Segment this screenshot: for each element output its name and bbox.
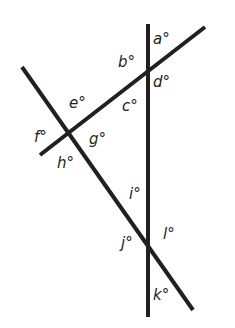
angle-diagram: a° b° d° c° e° f° g° h° i° j° l° k° (0, 0, 235, 328)
angle-label-h: h° (57, 154, 74, 172)
angle-label-c: c° (122, 97, 138, 115)
angle-label-k: k° (153, 286, 169, 304)
angle-label-f: f° (34, 128, 47, 146)
angle-label-l: l° (163, 225, 175, 243)
angle-label-b: b° (118, 53, 135, 71)
angle-label-i: i° (129, 185, 141, 203)
angle-label-j: j° (119, 234, 133, 252)
angle-label-g: g° (89, 130, 106, 148)
angle-label-a: a° (153, 30, 170, 48)
angle-label-e: e° (69, 94, 86, 112)
rising-diagonal-line (40, 27, 205, 155)
angle-label-d: d° (153, 73, 170, 91)
